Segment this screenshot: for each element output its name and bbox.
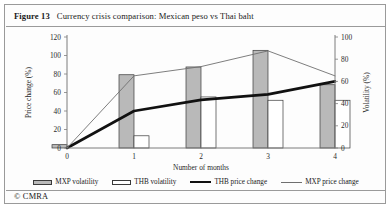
white-bar-icon (112, 180, 131, 185)
thin-gray-line-icon (281, 182, 302, 183)
x-tick-label: 0 (65, 152, 69, 161)
legend-item-mxp-volatility[interactable]: MXP volatility (33, 178, 98, 186)
y-tick-label: 80 (54, 70, 62, 79)
legend-item-thb-volatility[interactable]: THB volatility (112, 178, 176, 186)
y2-tick-label: 80 (341, 55, 349, 64)
legend-label: THB price change (214, 178, 267, 186)
bar (134, 136, 149, 148)
y-tick-label: 40 (54, 107, 62, 116)
bar (253, 50, 268, 148)
x-tick-label: 4 (333, 152, 337, 161)
x-tick-label: 3 (266, 152, 270, 161)
copyright-text: © CMRA (14, 192, 48, 201)
y2-axis-title: Volatility (%) (362, 72, 371, 113)
legend-label: MXP volatility (55, 178, 98, 186)
bar (320, 85, 335, 148)
y2-tick-label: 100 (341, 33, 352, 42)
figure-card: Figure 13Currency crisis comparison: Mex… (4, 4, 386, 204)
y-tick-label: 20 (54, 125, 62, 134)
x-axis-title: Number of months (173, 163, 229, 172)
figure-caption: Figure 13Currency crisis comparison: Mex… (14, 11, 254, 21)
figure-title-text: Currency crisis comparison: Mexican peso… (57, 11, 254, 21)
y2-tick-label: 40 (341, 99, 349, 108)
legend-label: THB volatility (134, 178, 176, 186)
bar (201, 97, 216, 148)
bar (186, 67, 201, 148)
footer-divider (6, 190, 386, 191)
legend-label: MXP price change (305, 178, 359, 186)
gray-bar-icon (33, 180, 52, 185)
thick-black-line-icon (190, 181, 211, 183)
chart-plot-area: 02040608010012002040608010001234Number o… (5, 27, 387, 182)
y-axis-title: Price change (%) (24, 67, 33, 118)
y2-tick-label: 20 (341, 121, 349, 130)
legend-item-thb-price-change[interactable]: THB price change (190, 178, 267, 186)
legend-item-mxp-price-change[interactable]: MXP price change (281, 178, 359, 186)
x-tick-label: 1 (132, 152, 136, 161)
y-tick-label: 100 (50, 51, 61, 60)
chart-svg: 02040608010012002040608010001234Number o… (5, 27, 387, 182)
bar (268, 100, 283, 148)
figure-number: Figure 13 (14, 11, 50, 21)
y2-tick-label: 60 (341, 77, 349, 86)
x-tick-label: 2 (199, 152, 203, 161)
y-tick-label: 60 (54, 88, 62, 97)
y-tick-label: 0 (57, 144, 61, 153)
y2-tick-label: 0 (341, 144, 345, 153)
chart-legend: MXP volatility THB volatility THB price … (5, 175, 387, 189)
y-tick-label: 120 (50, 33, 61, 42)
